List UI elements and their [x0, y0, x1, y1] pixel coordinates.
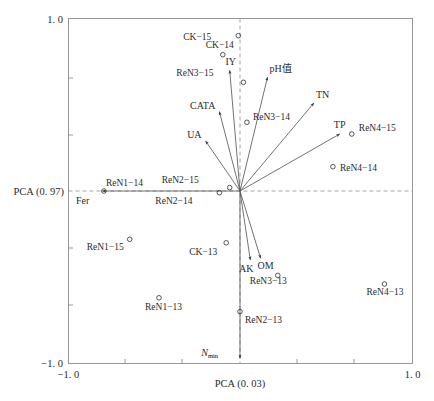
loading-label-cata: CATA — [190, 100, 216, 111]
sample-label: ReN1−14 — [106, 178, 143, 188]
sample-label: ReN3−14 — [253, 112, 290, 122]
sample-label: ReN1−15 — [87, 242, 124, 252]
sample-label: CK−14 — [206, 40, 234, 50]
sample-label: ReN2−13 — [245, 315, 282, 325]
nmin-subscript: min — [208, 352, 219, 359]
loading-label-ak: AK — [239, 263, 254, 274]
sample-label: ReN4−13 — [367, 287, 404, 297]
sample-point — [224, 241, 229, 246]
biplot-canvas: CK−15 CK−14 ReN3−15 ReN3−14 ReN4−15 ReN4… — [0, 0, 434, 401]
x-axis-title: PCA (0. 03) — [215, 378, 266, 390]
sample-point — [127, 237, 132, 242]
sample-point — [382, 282, 387, 287]
sample-label: ReN1−13 — [145, 302, 182, 312]
sample-label: ReN2−15 — [162, 175, 199, 185]
loading-vector-om — [240, 191, 261, 258]
sample-point — [245, 120, 250, 125]
loading-labels: IY pH值 TN TP CATA UA Fer AK OM Nmin — [76, 56, 346, 359]
sample-label: ReN2−14 — [155, 196, 192, 206]
loading-label-om: OM — [258, 260, 274, 271]
sample-label: ReN3−15 — [176, 68, 213, 78]
loading-vectors — [102, 70, 339, 358]
loading-vector-iy — [230, 70, 240, 191]
loading-vector-tp — [240, 134, 340, 191]
loading-vector-ua — [206, 141, 240, 191]
pca-biplot-figure: CK−15 CK−14 ReN3−15 ReN3−14 ReN4−15 ReN4… — [0, 0, 434, 401]
sample-point — [157, 296, 162, 301]
loading-label-tn: TN — [316, 89, 329, 100]
sample-point — [350, 132, 355, 137]
loading-label-nmin: Nmin — [200, 347, 219, 359]
sample-label: ReN3−13 — [250, 276, 287, 286]
y-tick-top: 1. 0 — [47, 14, 63, 25]
loading-label-iy: IY — [225, 56, 236, 67]
sample-point — [331, 164, 336, 169]
y-tick-bottom: −1. 0 — [41, 358, 63, 369]
x-tick-right: 1. 0 — [405, 369, 421, 380]
y-axis-title: PCA (0. 97) — [14, 186, 65, 198]
loading-label-ph: pH值 — [270, 62, 292, 74]
sample-label: ReN4−14 — [340, 163, 377, 173]
sample-label: ReN4−15 — [359, 123, 396, 133]
loading-label-fer: Fer — [76, 195, 90, 206]
sample-point — [221, 52, 226, 57]
axis-ticks — [69, 78, 355, 364]
x-tick-left: −1. 0 — [58, 369, 80, 380]
loading-label-tp: TP — [334, 119, 346, 130]
loading-vector-ph — [240, 77, 268, 191]
loading-vector-ak — [240, 191, 250, 260]
sample-point — [241, 80, 246, 85]
sample-label: CK−13 — [189, 247, 217, 257]
loading-label-ua: UA — [187, 129, 202, 140]
sample-point — [227, 185, 232, 190]
sample-labels: CK−15 CK−14 ReN3−15 ReN3−14 ReN4−15 ReN4… — [87, 32, 404, 325]
